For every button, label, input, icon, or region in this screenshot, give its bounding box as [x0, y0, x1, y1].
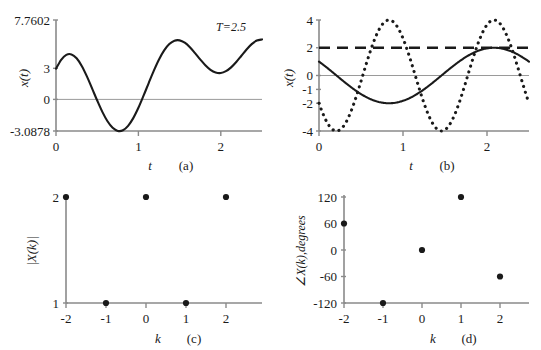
data-point	[223, 194, 229, 200]
data-point	[341, 220, 347, 226]
panel-c-x-axis-label: k	[155, 331, 161, 346]
panel-d-y-axis-label: ∠X(k),degrees	[294, 215, 308, 287]
panel-a-ytick-label-2: 0	[44, 92, 51, 107]
panel-b-caption: (b)	[439, 158, 454, 173]
panel-c-ytick-label-0: 2	[53, 190, 60, 205]
panel-c-xtick-label-0: -2	[61, 311, 72, 326]
panel-d-data-points	[341, 194, 503, 306]
panel-a-x-axis-label: t	[148, 158, 152, 173]
panel-d-ytick-label-2: 0	[331, 243, 338, 258]
panel-c: 2 1 -2 -1 0 1 2 |X(k)| k (c)	[0, 175, 271, 350]
panel-c-data-points	[63, 194, 229, 306]
panel-d-xtick-label-2: 0	[419, 311, 426, 326]
panel-d-ytick-label-0: 120	[318, 190, 338, 205]
panel-b-ytick-label-1: 2	[307, 40, 314, 55]
panel-b-xtick-label-1: 1	[400, 139, 407, 154]
panel-a-xtick-label-0: 0	[53, 139, 60, 154]
panel-a-annotation: T=2.5	[216, 20, 246, 34]
panel-b-xtick-label-2: 2	[484, 139, 491, 154]
panel-a-ytick-label-0: 7.7602	[14, 13, 50, 28]
panel-d-xtick-label-1: -1	[378, 311, 389, 326]
panel-d: 120 60 0 -60 -120 -2 -1 0 1 2 ∠X(k),degr…	[271, 175, 541, 350]
panel-a-caption: (a)	[179, 158, 193, 173]
data-point	[497, 273, 503, 279]
panel-a-ytick-label-1: 3	[44, 61, 51, 76]
panel-c-xtick-label-3: 1	[183, 311, 190, 326]
panel-d-xtick-label-0: -2	[339, 311, 350, 326]
panel-a-y-axis-label: x(t)	[16, 69, 31, 88]
panel-c-caption: (c)	[187, 331, 201, 346]
panel-b-xtick-label-0: 0	[316, 139, 323, 154]
panel-b-ytick-label-4: -2	[302, 96, 313, 111]
panel-d-ytick-label-1: 60	[324, 216, 337, 231]
panel-b-ytick-label-0: 4	[307, 13, 314, 28]
panel-b-ytick-label-2: 0	[307, 68, 314, 83]
panel-b-plot: 4 2 0 -1 -2 -4 0 1 2 x(t) t (b)	[271, 0, 541, 175]
panel-d-x-axis-label: k	[430, 331, 436, 346]
data-point	[143, 194, 149, 200]
data-point	[419, 247, 425, 253]
panel-c-xtick-label-4: 2	[223, 311, 230, 326]
panel-b-ytick-label-5: -4	[302, 124, 313, 139]
panel-c-ytick-label-1: 1	[53, 296, 60, 311]
panel-c-plot: 2 1 -2 -1 0 1 2 |X(k)| k (c)	[0, 175, 271, 350]
panel-c-xtick-label-2: 0	[143, 311, 150, 326]
panel-a-waveform	[56, 39, 262, 131]
panel-a-plot: 7.7602 3 0 -3.0878 0 1 2 x(t) t (a) T=2.…	[0, 0, 271, 175]
panel-b: 4 2 0 -1 -2 -4 0 1 2 x(t) t (b)	[271, 0, 541, 175]
panel-d-ytick-label-3: -60	[320, 269, 337, 284]
data-point	[183, 300, 189, 306]
data-point	[380, 300, 386, 306]
panel-d-plot: 120 60 0 -60 -120 -2 -1 0 1 2 ∠X(k),degr…	[271, 175, 541, 350]
data-point	[103, 300, 109, 306]
panel-c-y-axis-label: |X(k)|	[24, 236, 39, 266]
panel-a: 7.7602 3 0 -3.0878 0 1 2 x(t) t (a) T=2.…	[0, 0, 271, 175]
panel-c-xtick-label-1: -1	[101, 311, 112, 326]
panel-b-y-axis-label: x(t)	[281, 69, 296, 88]
panel-d-xtick-label-3: 1	[458, 311, 465, 326]
panel-b-x-axis-label: t	[409, 158, 413, 173]
panel-a-ytick-label-3: -3.0878	[10, 124, 50, 139]
panel-d-xtick-label-4: 2	[497, 311, 504, 326]
panel-a-xtick-label-1: 1	[135, 139, 142, 154]
panel-d-ytick-label-4: -120	[313, 296, 337, 311]
panel-a-xtick-label-2: 2	[218, 139, 225, 154]
data-point	[63, 194, 69, 200]
data-point	[458, 194, 464, 200]
figure-container: 7.7602 3 0 -3.0878 0 1 2 x(t) t (a) T=2.…	[0, 0, 541, 350]
panel-d-caption: (d)	[461, 331, 476, 346]
panel-b-ytick-label-3: -1	[302, 82, 313, 97]
